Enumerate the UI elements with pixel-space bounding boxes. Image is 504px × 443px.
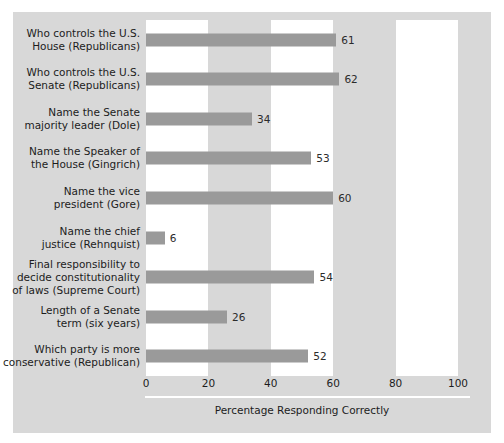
category-label-row: Final responsibility to decide constitut… — [0, 257, 140, 297]
bar[interactable] — [146, 191, 333, 204]
chart-figure: Who controls the U.S. House (Republicans… — [0, 0, 504, 443]
bar-row: 60 — [146, 178, 458, 218]
bar[interactable] — [146, 310, 227, 323]
category-label: Name the Senate majority leader (Dole) — [2, 106, 140, 132]
x-axis-ticks: 020406080100 — [146, 376, 458, 392]
bar-row: 52 — [146, 336, 458, 376]
x-tick-label: 100 — [448, 378, 468, 389]
bar-row: 6 — [146, 218, 458, 258]
x-tick-label: 80 — [389, 378, 402, 389]
bar-value-label: 6 — [170, 232, 177, 243]
bar-value-label: 60 — [338, 193, 351, 204]
bar-value-label: 53 — [316, 153, 329, 164]
bar-value-label: 61 — [341, 35, 354, 46]
category-label: Which party is more conservative (Republ… — [2, 343, 140, 369]
bar-value-label: 54 — [319, 272, 332, 283]
bar[interactable] — [146, 33, 336, 46]
category-label: Who controls the U.S. Senate (Republican… — [2, 66, 140, 92]
bar-value-label: 26 — [232, 311, 245, 322]
bar[interactable] — [146, 231, 165, 244]
axis-rule — [145, 396, 470, 398]
bar-row: 34 — [146, 99, 458, 139]
x-tick-label: 0 — [143, 378, 150, 389]
category-label: Final responsibility to decide constitut… — [2, 258, 140, 297]
plot-area: 61623453606542652 — [146, 20, 458, 376]
bar-value-label: 62 — [344, 74, 357, 85]
category-label: Name the vice president (Gore) — [2, 185, 140, 211]
category-axis-labels: Who controls the U.S. House (Republicans… — [0, 20, 140, 376]
category-label-row: Name the Speaker of the House (Gingrich) — [0, 139, 140, 179]
bar-row: 62 — [146, 60, 458, 100]
category-label: Who controls the U.S. House (Republicans… — [2, 27, 140, 53]
x-tick-label: 60 — [327, 378, 340, 389]
bar[interactable] — [146, 271, 314, 284]
category-label: Name the Speaker of the House (Gingrich) — [2, 145, 140, 171]
category-label-row: Name the Senate majority leader (Dole) — [0, 99, 140, 139]
category-label-row: Length of a Senate term (six years) — [0, 297, 140, 337]
category-label-row: Name the chief justice (Rehnquist) — [0, 218, 140, 258]
bar[interactable] — [146, 73, 339, 86]
category-label-row: Which party is more conservative (Republ… — [0, 336, 140, 376]
category-label-row: Who controls the U.S. House (Republicans… — [0, 20, 140, 60]
category-label-row: Name the vice president (Gore) — [0, 178, 140, 218]
bar[interactable] — [146, 152, 311, 165]
bar-row: 54 — [146, 257, 458, 297]
x-tick-label: 40 — [264, 378, 277, 389]
bar-row: 53 — [146, 139, 458, 179]
category-label-row: Who controls the U.S. Senate (Republican… — [0, 60, 140, 100]
bar[interactable] — [146, 112, 252, 125]
bar-value-label: 34 — [257, 114, 270, 125]
bar-value-label: 52 — [313, 351, 326, 362]
category-label: Name the chief justice (Rehnquist) — [2, 225, 140, 251]
bar[interactable] — [146, 350, 308, 363]
x-axis-label: Percentage Responding Correctly — [146, 404, 458, 416]
x-tick-label: 20 — [202, 378, 215, 389]
bar-row: 26 — [146, 297, 458, 337]
category-label: Length of a Senate term (six years) — [2, 304, 140, 330]
bar-row: 61 — [146, 20, 458, 60]
